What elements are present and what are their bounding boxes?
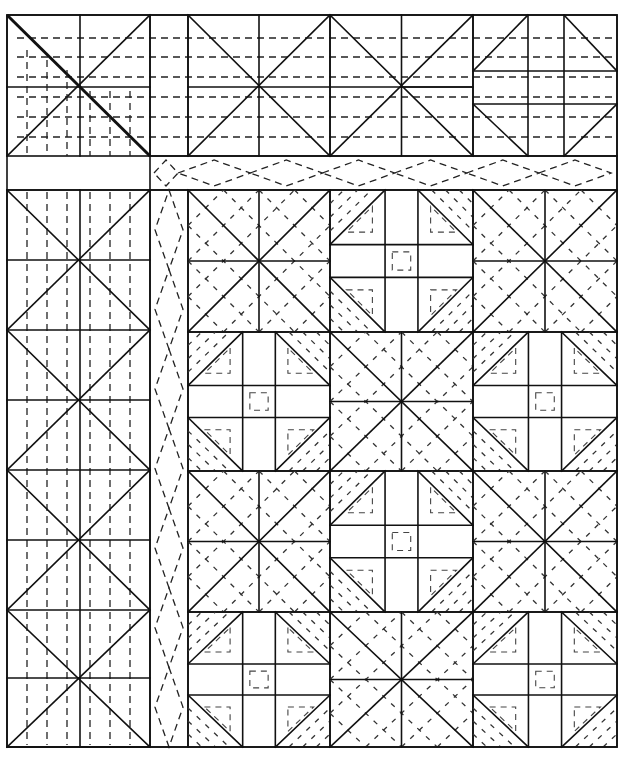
triangle-diagonal (418, 558, 473, 612)
triangle-diagonal (330, 277, 385, 332)
main-block-grid (188, 190, 617, 747)
quilting-line (473, 458, 487, 471)
triangle-diagonal (418, 277, 473, 332)
quilting-line (589, 721, 617, 747)
triangle-diagonal (188, 695, 243, 747)
x-block (473, 471, 617, 612)
quilting-line (330, 471, 358, 498)
quilting-line (589, 444, 617, 471)
triangle-diagonal (562, 695, 617, 747)
quilting-line (473, 332, 487, 345)
quilting-line (445, 190, 473, 217)
quilting-line (445, 471, 473, 498)
quilting-line (188, 458, 202, 471)
quilting-line (303, 444, 330, 471)
quilting-line (473, 721, 501, 747)
triangle-diagonal (562, 332, 617, 386)
center-square-quilting (250, 393, 268, 411)
quilting-line (316, 612, 330, 625)
quilting-line (473, 444, 501, 471)
triangle-diagonal (330, 558, 385, 612)
cell-outline (473, 15, 617, 156)
triangle-diagonal (473, 612, 528, 664)
shoofly-block (473, 332, 617, 471)
quilting-line (603, 458, 617, 471)
triangle-diagonal (275, 612, 330, 664)
quilting-line (459, 598, 473, 612)
quilting-line (330, 305, 358, 332)
x-block (330, 612, 473, 747)
shoofly-block (188, 332, 330, 471)
quilting-line (473, 332, 501, 359)
quilting-line (445, 305, 473, 332)
inner-triangle-quilting (347, 206, 373, 232)
sashing-diamond (155, 429, 183, 509)
quilting-line (330, 585, 358, 612)
triangle-diagonal (275, 695, 330, 747)
horizontal-sashing (150, 156, 617, 190)
quilting-line (473, 612, 487, 625)
triangle-diagonal (564, 15, 617, 71)
border-outline (7, 190, 150, 747)
triangle-diagonal (275, 417, 330, 471)
left-border (7, 190, 150, 747)
sashing-diamond (395, 160, 467, 186)
sashing-diamond (155, 190, 183, 270)
inner-triangle-quilting (431, 290, 457, 316)
block-outline (330, 190, 473, 332)
center-square-quilting (392, 533, 410, 551)
triangle-diagonal (275, 332, 330, 386)
triangle-diagonal (418, 471, 473, 525)
quilting-line (188, 332, 202, 345)
sashing-diamond (155, 667, 183, 747)
diamond-chain (154, 160, 611, 186)
triangle-diagonal (473, 695, 528, 747)
top-left-corner-cell (7, 15, 150, 156)
sashing-diamond (155, 588, 183, 668)
triangle-diagonal (188, 417, 243, 471)
triangle-diagonal (188, 612, 243, 664)
quilting-line (303, 721, 330, 747)
triangle-diagonal (473, 332, 528, 386)
x-block (473, 190, 617, 332)
quilt-diagram (0, 0, 622, 761)
triangle-diagonal (564, 104, 617, 156)
quilting-line (303, 332, 330, 359)
x-block (330, 332, 473, 471)
top-border-x-unit (188, 15, 330, 156)
sashing-outline (150, 190, 188, 747)
inner-triangle-quilting (347, 290, 373, 316)
block-outline (330, 471, 473, 612)
triangle-diagonal (330, 471, 385, 525)
quilting-line (330, 190, 344, 204)
quilting-line (188, 734, 202, 747)
block-outline (188, 612, 330, 747)
triangle-diagonal (418, 190, 473, 245)
triangle-diagonal (473, 417, 528, 471)
sashing-diamond (250, 160, 322, 186)
quilting-line (459, 471, 473, 485)
quilting-line (445, 585, 473, 612)
sashing-diamond (467, 160, 539, 186)
quilting-line (589, 332, 617, 359)
quilting-line (589, 612, 617, 638)
diamond-chain (155, 190, 183, 747)
vertical-sashing (150, 190, 188, 747)
triangle-diagonal (188, 332, 243, 386)
center-square-quilting (392, 252, 410, 270)
quilting-line (473, 734, 487, 747)
triangle-diagonal (473, 15, 528, 71)
sashing-diamond (178, 160, 250, 186)
border-strip (150, 15, 188, 156)
quilting-line (188, 444, 215, 471)
x-block (188, 190, 330, 332)
sashing-diamond (155, 508, 183, 588)
block-outline (473, 612, 617, 747)
triangle-diagonal (562, 417, 617, 471)
triangle-diagonal (562, 612, 617, 664)
triangle-diagonal (330, 190, 385, 245)
quilting-line (316, 734, 330, 747)
quilting-line (330, 598, 344, 612)
inner-triangle-quilting (431, 206, 457, 232)
shoofly-block (330, 190, 473, 332)
